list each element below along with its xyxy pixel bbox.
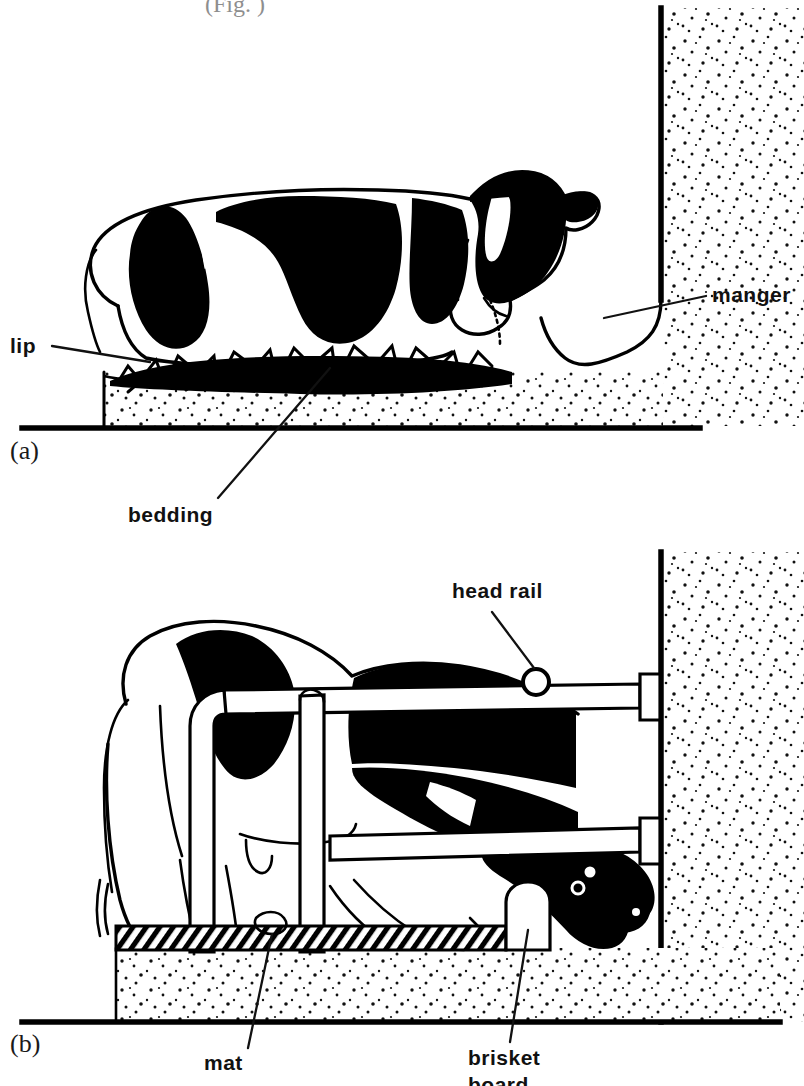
figure-svg: (Fig. )	[0, 0, 804, 1086]
panel-b-stall-base	[116, 948, 780, 1022]
label-brisket-board-line1: brisket	[468, 1046, 540, 1069]
panel-marker-a: (a)	[10, 436, 39, 465]
figure-container: (Fig. )	[0, 0, 804, 1086]
label-manger: manger	[712, 283, 791, 306]
label-mat: mat	[204, 1051, 243, 1074]
label-bedding: bedding	[128, 503, 213, 526]
cow-lying	[85, 172, 599, 367]
cubicle-mat	[116, 926, 506, 950]
label-head-rail: head rail	[452, 579, 543, 602]
top-cut-caption: (Fig. )	[205, 0, 265, 17]
panel-a: lip manger bedding (a)	[10, 8, 804, 526]
label-lip: lip	[10, 334, 36, 357]
panel-b: head rail mat brisket board (b)	[10, 552, 804, 1086]
head-rail-pipe-end-icon	[523, 669, 549, 695]
head-rail-leader	[492, 612, 534, 668]
brisket-board	[506, 882, 550, 950]
label-brisket-board-line2: board	[468, 1073, 529, 1086]
panel-marker-b: (b)	[10, 1029, 40, 1058]
cow-standing	[97, 621, 655, 950]
panel-a-wall-concrete	[663, 8, 804, 426]
